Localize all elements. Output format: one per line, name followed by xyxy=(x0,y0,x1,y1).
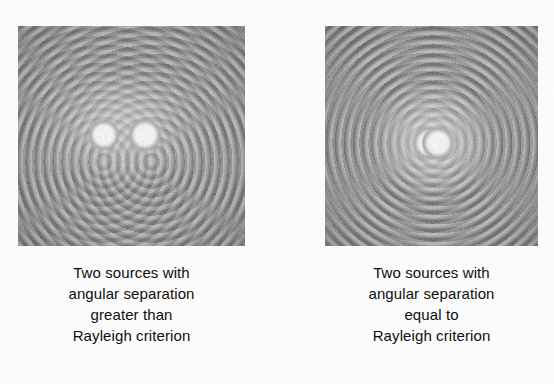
caption-line: Two sources with xyxy=(18,262,245,283)
caption-line: greater than xyxy=(18,304,245,325)
caption-resolved: Two sources with angular separation grea… xyxy=(18,262,245,346)
vignette-right xyxy=(325,26,538,246)
diffraction-image-resolved xyxy=(18,26,245,246)
caption-marginal: Two sources with angular separation equa… xyxy=(325,262,538,346)
caption-line: equal to xyxy=(325,304,538,325)
caption-line: Rayleigh criterion xyxy=(325,325,538,346)
panel-group-resolved: Two sources with angular separation grea… xyxy=(18,26,245,346)
vignette-left xyxy=(18,26,245,246)
figure-root: Two sources with angular separation grea… xyxy=(0,0,554,384)
caption-line: Two sources with xyxy=(325,262,538,283)
caption-line: angular separation xyxy=(18,283,245,304)
caption-line: Rayleigh criterion xyxy=(18,325,245,346)
caption-line: angular separation xyxy=(325,283,538,304)
diffraction-image-marginal xyxy=(325,26,538,246)
panel-group-marginal: Two sources with angular separation equa… xyxy=(325,26,538,346)
